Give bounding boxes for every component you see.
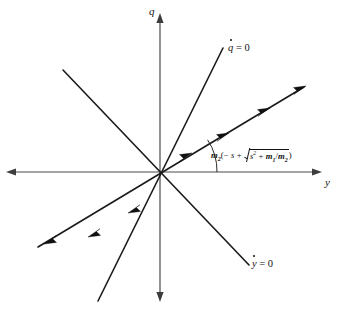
qdot-nullcline-label: q = 0 (228, 42, 250, 53)
formula-radical: s2 + m1/m2 (244, 148, 289, 162)
arrowhead-ll-1 (128, 205, 141, 213)
vertical-axis-label: q (149, 6, 155, 17)
formula-minus: − (224, 150, 231, 160)
slope-formula: m2(− s + s2 + m1/m2) (211, 148, 292, 162)
horizontal-axis-arrow-right (312, 168, 322, 175)
arrowhead-ll-2 (88, 229, 101, 237)
ydot-variable: y (252, 258, 257, 269)
formula-radicand: s2 + m1/m2 (249, 149, 289, 163)
diagram-canvas (0, 0, 346, 314)
overdot-icon (253, 255, 255, 257)
arrowhead-ur-1 (217, 133, 230, 141)
horizontal-axis-arrow-left (6, 168, 16, 175)
radicand-denominator: m (278, 150, 285, 160)
qdot-equals-zero: = 0 (233, 42, 249, 53)
overdot-icon (230, 39, 232, 41)
horizontal-axis-label: y (325, 177, 330, 188)
qdot-variable: q (228, 42, 233, 53)
vertical-axis-arrow-up (156, 13, 163, 23)
saddle-path-arrows-lower (44, 205, 141, 244)
phase-plane-figure: q y q = 0 y = 0 m2(− s + s2 + m1/m2) (0, 0, 346, 314)
vertical-axis-arrow-down (156, 292, 163, 302)
radical-sign-icon (244, 148, 249, 162)
ydot-variable-letter: y (252, 258, 257, 269)
qdot-variable-letter: q (228, 42, 233, 53)
formula-plus: + (234, 150, 243, 160)
radicand-denominator-sub: 2 (285, 156, 288, 162)
saddle-path-arrow-near-origin (180, 153, 193, 161)
arrowhead-ur-0 (180, 153, 193, 161)
arrowhead-ur-3 (294, 86, 307, 94)
ydot-equals-zero: = 0 (257, 258, 273, 269)
radicand-plus: + (256, 150, 265, 160)
arrowhead-ur-2 (258, 108, 271, 116)
vertical-axis (156, 13, 163, 302)
radicand-numerator: m (266, 150, 273, 160)
arrowhead-ll-3 (44, 236, 57, 244)
formula-coefficient: m (211, 150, 218, 160)
formula-close-paren: ) (289, 150, 292, 160)
ydot-nullcline-label: y = 0 (252, 258, 273, 269)
